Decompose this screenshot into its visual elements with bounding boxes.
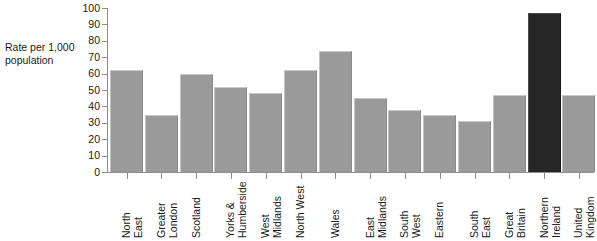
x-axis-category-label-text: Northern Ireland <box>539 178 562 238</box>
bar <box>528 13 561 172</box>
bar <box>284 70 317 172</box>
x-axis-category-label: Greater London <box>145 178 179 240</box>
x-axis-category-label: North East <box>110 178 144 240</box>
x-axis-category-label: Northern Ireland <box>528 178 562 240</box>
x-axis-category-label-text: Greater London <box>156 178 179 238</box>
bar <box>562 95 595 172</box>
x-axis-category-label-text: North West <box>295 178 307 238</box>
x-axis-category-label: South East <box>458 178 492 240</box>
bar <box>180 74 213 172</box>
bar <box>493 95 526 172</box>
bar <box>458 121 491 172</box>
x-axis-category-label-text: North East <box>121 178 144 238</box>
x-axis-category-label-text: West Midlands <box>260 178 283 238</box>
bar <box>110 70 143 172</box>
bar <box>388 110 421 172</box>
x-axis-category-label: Scotland <box>180 178 214 240</box>
x-axis-category-label-text: Wales <box>330 178 342 238</box>
x-axis-category-label: Eastern <box>423 178 457 240</box>
x-axis-category-label: South West <box>388 178 422 240</box>
bar <box>214 87 247 172</box>
x-axis-category-label: East Midlands <box>354 178 388 240</box>
x-axis-category-label-text: Scotland <box>191 178 203 238</box>
x-axis-category-label: United Kingdom <box>562 178 596 240</box>
bar <box>145 115 178 172</box>
x-axis-category-label: North West <box>284 178 318 240</box>
x-axis-category-label-text: Yorks & Humberside <box>225 178 248 238</box>
x-axis-category-label-text: South East <box>469 178 492 238</box>
x-axis-category-label-text: Great Britain <box>504 178 527 238</box>
bar <box>319 51 352 172</box>
plot-area <box>0 0 597 173</box>
x-axis-category-label-text: South West <box>399 178 422 238</box>
x-axis-category-label: Yorks & Humberside <box>214 178 248 240</box>
bar-chart: Rate per 1,000 population 10090807060504… <box>0 0 597 241</box>
bar <box>249 93 282 172</box>
x-axis-category-label-text: East Midlands <box>365 178 388 238</box>
x-axis-category-label-text: Eastern <box>434 178 446 238</box>
x-axis-category-labels: North EastGreater LondonScotlandYorks & … <box>0 178 597 241</box>
bar <box>354 98 387 172</box>
x-axis-category-label: Great Britain <box>493 178 527 240</box>
x-axis-category-label: Wales <box>319 178 353 240</box>
x-axis-category-label-text: United Kingdom <box>573 178 596 238</box>
bar <box>423 115 456 172</box>
x-axis-category-label: West Midlands <box>249 178 283 240</box>
